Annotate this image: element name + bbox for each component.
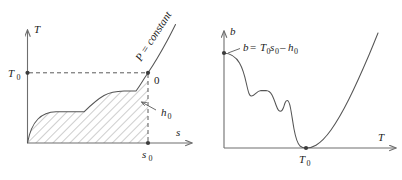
- svg-text:0: 0: [168, 112, 172, 121]
- ts-point-T0: [25, 71, 29, 75]
- ts-tick-label-s0: s 0: [142, 148, 153, 163]
- svg-text:0: 0: [149, 154, 153, 163]
- ts-y-axis-label: T: [34, 23, 41, 35]
- svg-text:0: 0: [307, 159, 311, 168]
- ts-point-0: [146, 71, 150, 75]
- bt-diagram-panel: b T T 0 b = T 0 s 0 – h 0: [222, 25, 396, 168]
- state-point-0-label: 0: [154, 74, 160, 86]
- bt-x-axis-label: T: [378, 131, 385, 143]
- svg-text:h: h: [161, 106, 167, 118]
- ts-x-axis-label: s: [176, 126, 180, 138]
- svg-text:T: T: [299, 153, 306, 165]
- svg-text:s: s: [142, 148, 146, 160]
- svg-text:T: T: [8, 67, 15, 79]
- bt-intercept-equation: b = T 0 s 0 – h 0: [243, 41, 298, 56]
- isobar-label: P = constant: [132, 8, 174, 64]
- svg-text:–: –: [279, 41, 286, 53]
- svg-text:0: 0: [17, 73, 21, 82]
- figure-canvas: T s T 0 s 0 0 h 0 P = constant: [0, 0, 402, 180]
- ts-point-s0: [146, 141, 150, 145]
- thermodynamics-figure: T s T 0 s 0 0 h 0 P = constant: [0, 0, 402, 180]
- svg-text:b: b: [243, 41, 249, 53]
- bt-y-axis-label: b: [230, 25, 236, 37]
- bt-tick-label-T0: T 0: [299, 153, 311, 168]
- bt-point-intercept: [222, 51, 226, 55]
- bt-point-T0: [304, 146, 308, 150]
- svg-text:s: s: [270, 41, 274, 53]
- ts-diagram-panel: T s T 0 s 0 0 h 0 P = constant: [8, 8, 192, 163]
- ts-tick-label-T0: T 0: [8, 67, 21, 82]
- svg-text:=: =: [250, 41, 256, 53]
- svg-text:0: 0: [275, 47, 279, 56]
- svg-text:0: 0: [294, 47, 298, 56]
- bt-intercept-leader-line: [228, 49, 240, 54]
- enthalpy-h0-label: h 0: [161, 106, 172, 121]
